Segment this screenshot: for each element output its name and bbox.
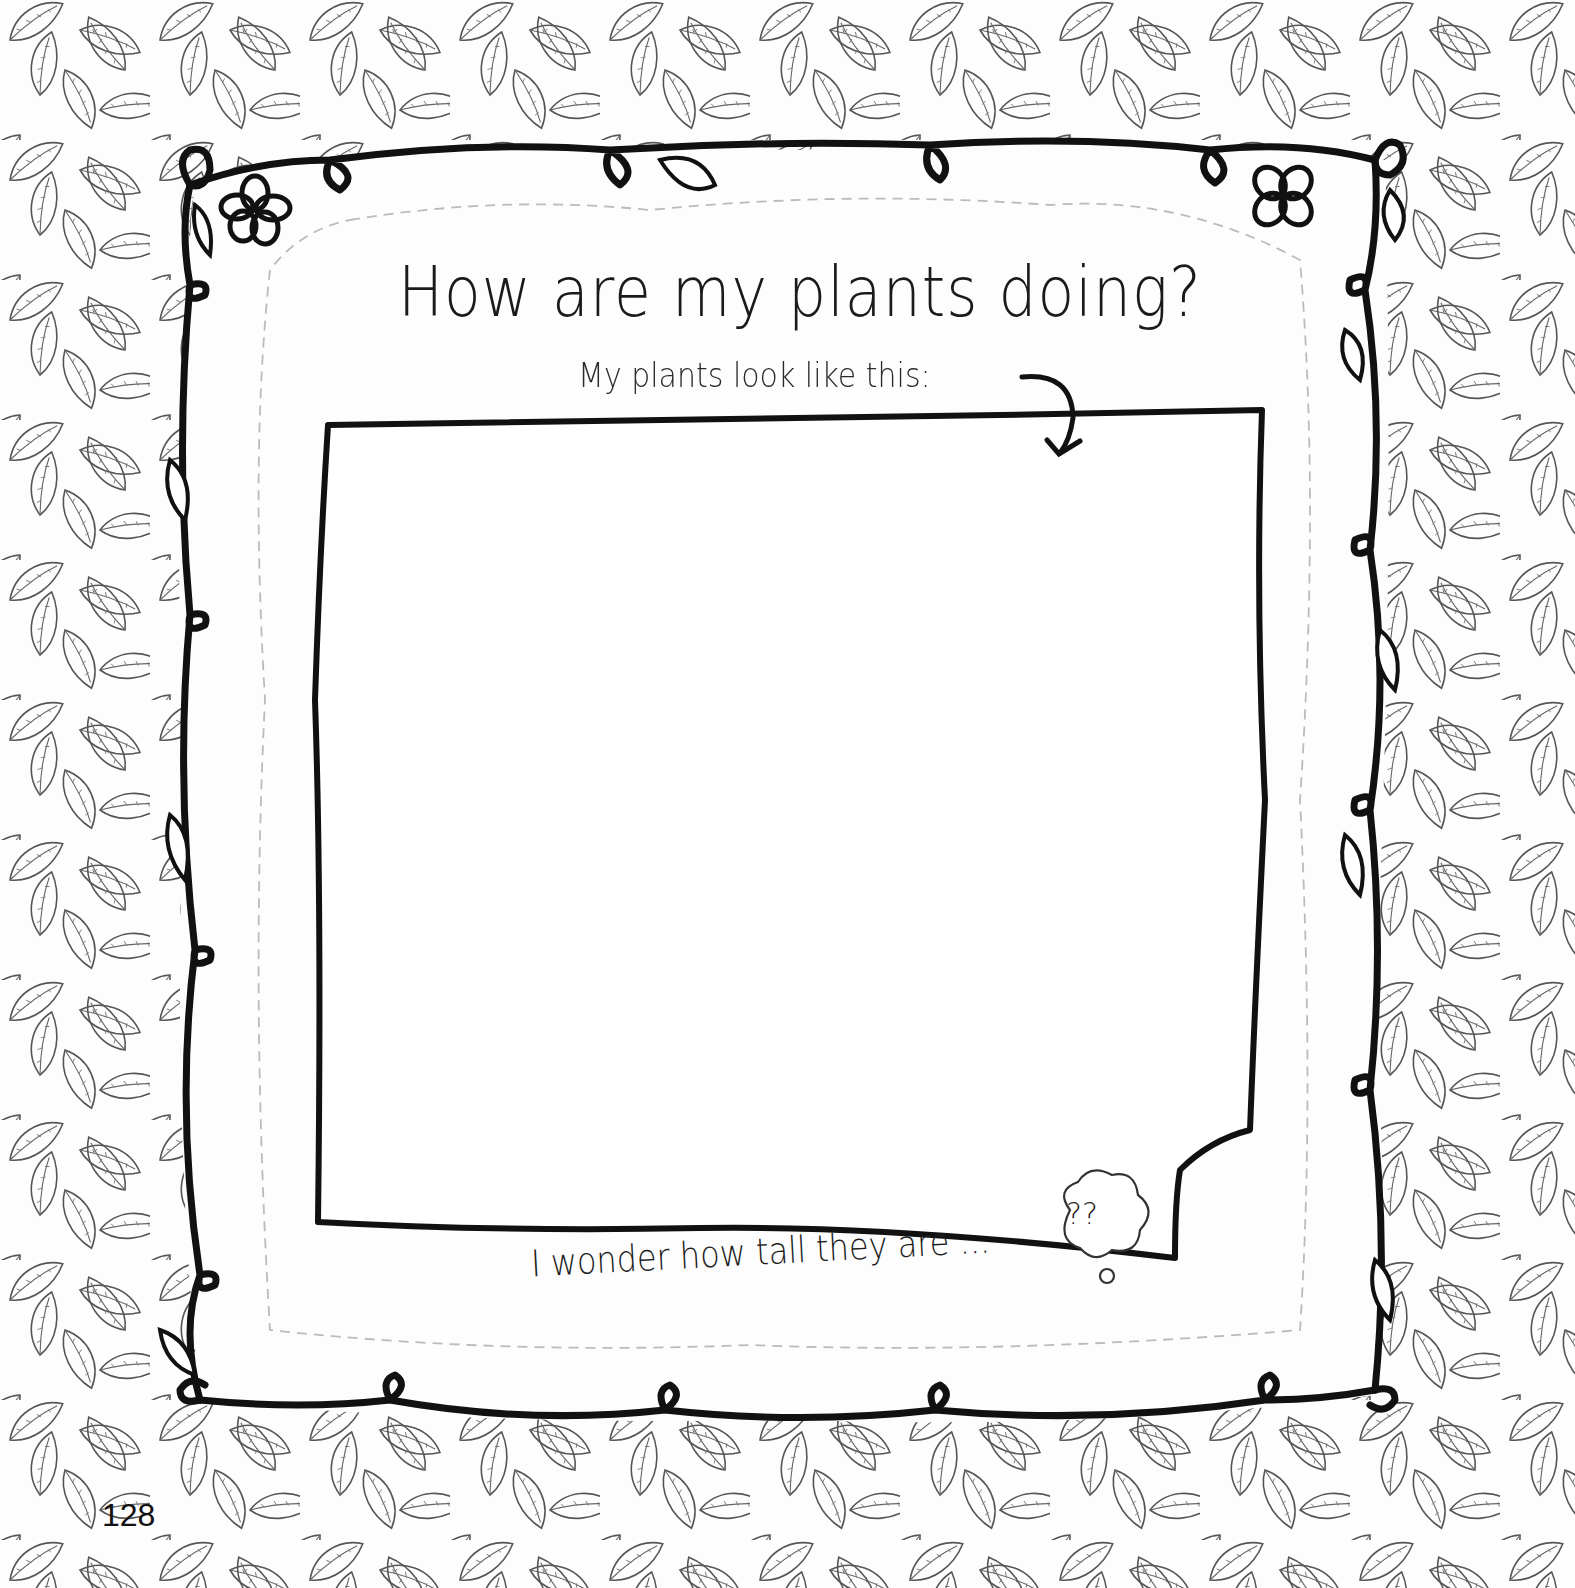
thought-bubble-text: ?? <box>1066 1196 1098 1231</box>
activity-page: How are my plants doing? My plants look … <box>0 0 1575 1588</box>
subtitle: My plants look like this: <box>578 355 931 395</box>
page-number: 128 <box>102 1497 155 1534</box>
drawing-area[interactable] <box>330 425 1260 1125</box>
page-title: How are my plants doing? <box>398 252 1202 333</box>
